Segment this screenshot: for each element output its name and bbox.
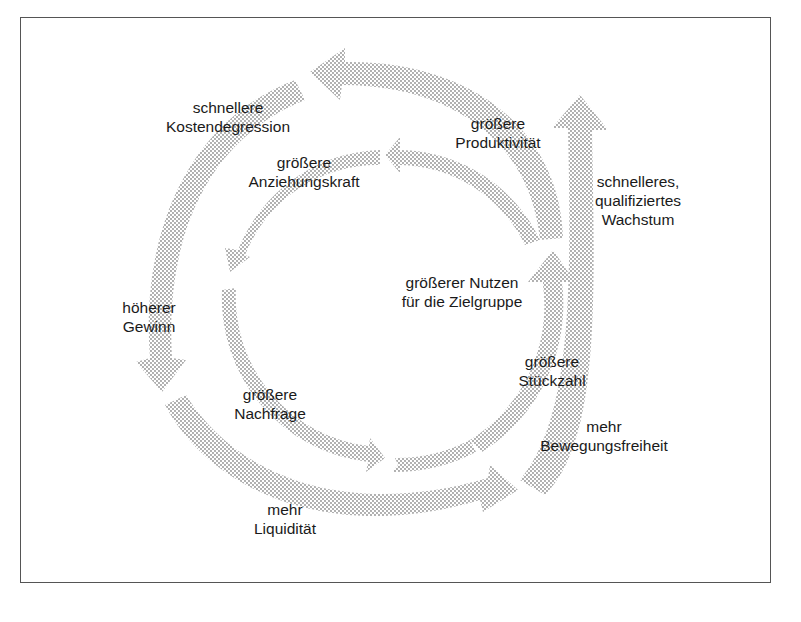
- label-productivity: größere Produktivität: [455, 114, 540, 152]
- cycle-arrows: [0, 0, 801, 622]
- label-center-benefit: größerer Nutzen für die Zielgruppe: [402, 273, 523, 311]
- inner-arrow-bottom: [392, 440, 476, 472]
- label-quantity: größere Stückzahl: [518, 352, 585, 390]
- label-profit: höherer Gewinn: [122, 298, 175, 336]
- label-demand: größere Nachfrage: [234, 385, 306, 423]
- label-growth: schnelleres, qualifiziertes Wachstum: [595, 172, 681, 229]
- label-attraction: größere Anziehungskraft: [248, 153, 359, 191]
- label-cost-degression: schnellere Kostendegression: [166, 98, 290, 136]
- label-freedom: mehr Bewegungsfreiheit: [540, 417, 668, 455]
- label-liquidity: mehr Liquidität: [254, 500, 316, 538]
- inner-arrow-demand: [222, 288, 385, 472]
